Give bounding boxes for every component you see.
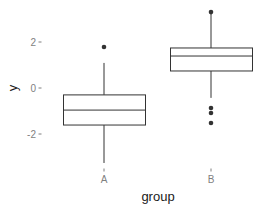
outlier-point [209, 121, 214, 126]
boxplot-chart: 20-2 AB y group [0, 0, 261, 216]
x-axis: AB [101, 169, 215, 186]
box-A [64, 45, 146, 163]
x-tick-label: A [101, 174, 108, 185]
outlier-point [209, 106, 214, 111]
outlier-point [209, 111, 214, 116]
y-axis-title: y [5, 84, 20, 91]
y-axis: 20-2 [27, 37, 41, 140]
y-tick-label: 2 [30, 37, 36, 48]
outlier-point [102, 45, 107, 50]
y-tick-label: 0 [30, 83, 36, 94]
outlier-point [209, 10, 214, 15]
y-tick-label: -2 [27, 129, 36, 140]
iqr-box [171, 48, 253, 71]
boxes [64, 10, 253, 163]
x-axis-title: group [141, 189, 174, 204]
x-tick-label: B [208, 174, 215, 185]
box-B [171, 10, 253, 125]
